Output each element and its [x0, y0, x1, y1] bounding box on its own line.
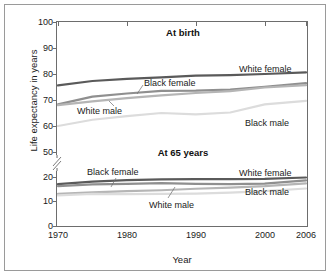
panel-title-at-birth: At birth [166, 27, 200, 38]
x-tick-label-1990: 1990 [186, 230, 206, 240]
y-tick-label-70: 70 [43, 95, 53, 105]
y-tick-label-60: 60 [43, 121, 53, 131]
leader-white-male-65 [168, 187, 175, 198]
panel-title-at-65-years: At 65 years [158, 147, 209, 158]
series-label-birth-white-female: White female [239, 64, 292, 74]
series-label-birth-white-male: White male [77, 106, 122, 116]
leader-black-female-65 [111, 178, 116, 187]
line-birth-white-male [58, 85, 306, 105]
y-tick-label-90: 90 [43, 43, 53, 53]
x-tick-label-2000: 2000 [255, 230, 275, 240]
y-axis-label: Life expectancy in years [28, 16, 39, 186]
series-label-65-white-male: White male [149, 200, 194, 210]
y-tick-label-20: 20 [43, 172, 53, 182]
series-label-birth-black-male: Black male [245, 118, 289, 128]
series-label-65-white-female: White female [239, 168, 292, 178]
x-axis-label: Year [56, 254, 308, 265]
chart-root: Life expectancy in years Year 100 90 80 … [0, 0, 331, 276]
y-axis-break-icon [51, 155, 63, 171]
y-tick-label-80: 80 [43, 69, 53, 79]
series-label-65-black-female: Black female [87, 167, 139, 177]
y-tick-label-10: 10 [43, 196, 53, 206]
series-label-birth-black-female: Black female [144, 78, 196, 88]
y-tick-label-100: 100 [38, 17, 53, 27]
x-tick-label-1970: 1970 [48, 230, 68, 240]
x-tick-label-2006: 2006 [296, 230, 316, 240]
x-tick-label-1980: 1980 [117, 230, 137, 240]
plot-area: 100 90 80 70 60 50 20 10 0 1970 1980 [56, 21, 308, 227]
series-label-65-black-male: Black male [245, 187, 289, 197]
